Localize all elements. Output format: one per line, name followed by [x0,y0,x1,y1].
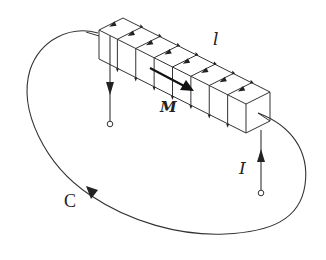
contour-label: C [64,191,76,211]
left-current-arrow-icon [106,82,114,95]
right-terminal [257,130,265,196]
length-label: l [213,29,218,49]
magnetization-label: M [159,98,177,116]
left-terminal [106,36,114,127]
solenoid-diagram: l M I C [0,0,326,260]
solenoid [86,18,270,133]
current-label: I [238,158,246,178]
contour-arrow-icon [86,186,98,199]
right-current-arrow-icon [257,149,265,162]
